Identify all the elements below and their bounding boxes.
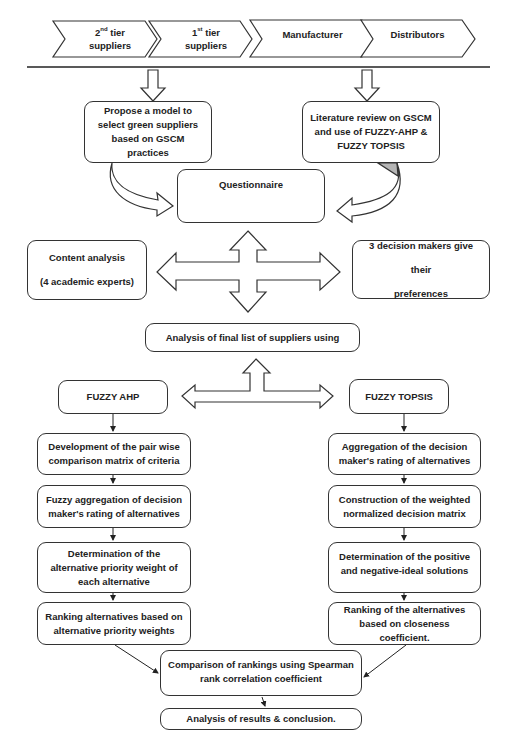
four-way-arrow	[157, 231, 340, 312]
propose-model-box: Propose a model to select green supplier…	[84, 101, 212, 163]
fuzzy-ahp-box: FUZZY AHP	[58, 380, 168, 414]
questionnaire-box: Questionnaire	[177, 169, 325, 223]
down-arrow-right	[355, 70, 379, 101]
ahp-step-3: Determination of thealternative priority…	[37, 542, 191, 593]
down-arrow-left	[141, 70, 165, 101]
topsis-step-3: Determination of the positiveand negativ…	[328, 542, 481, 593]
three-way-arrow	[182, 359, 333, 408]
comparison-box: Comparison of rankings using Spearmanran…	[160, 650, 362, 696]
curved-arrow-right	[337, 163, 400, 222]
ahp-step-2: Fuzzy aggregation of decisionmaker's rat…	[37, 485, 191, 528]
chevron-label-2nd-tier: 2nd tier suppliers	[70, 22, 150, 56]
curved-arrow-left	[110, 163, 173, 216]
topsis-step-2: Construction of the weightednormalized d…	[328, 485, 481, 528]
chevron-label-1st-tier: 1st tier suppliers	[166, 22, 246, 56]
chevron-label-manufacturer: Manufacturer	[265, 22, 360, 46]
chevron-label-distributors: Distributors	[375, 22, 460, 46]
topsis-step-4: Ranking of the alternativesbased on clos…	[328, 602, 481, 645]
topsis-step-1: Aggregation of the decisionmaker's ratin…	[328, 433, 481, 475]
ahp-step-4: Ranking alternatives based onalternative…	[37, 602, 191, 645]
analysis-final-list-box: Analysis of final list of suppliers usin…	[145, 323, 360, 352]
conclusion-box: Analysis of results & conclusion.	[160, 708, 362, 730]
literature-review-box: Literature review on GSCM and use of FUZ…	[302, 101, 440, 163]
fuzzy-topsis-box: FUZZY TOPSIS	[349, 379, 449, 414]
content-analysis-box: Content analysis (4 academic experts)	[27, 240, 147, 300]
ahp-step-1: Development of the pair wisecomparison m…	[37, 433, 191, 475]
decision-makers-box: 3 decision makers give their preferences	[352, 240, 490, 299]
